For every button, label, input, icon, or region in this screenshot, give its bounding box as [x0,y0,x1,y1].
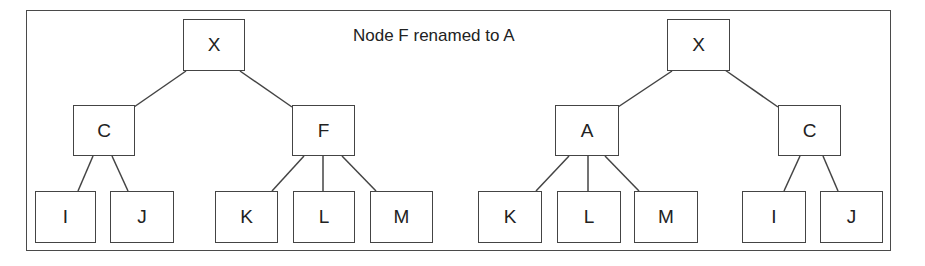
node-after-X: X [667,19,730,71]
node-before-X: X [183,19,245,71]
node-before-F: F [292,105,355,156]
edge-before-X-F [240,71,292,107]
edge-after-C-J [823,156,838,191]
node-before-I: I [35,191,96,243]
edge-before-C-I [78,156,93,191]
node-after-M: M [634,191,698,243]
node-after-L: L [557,191,621,243]
diagram-caption: Node F renamed to A [353,26,515,46]
node-before-C: C [73,105,135,156]
edge-before-C-J [112,156,128,191]
node-after-I: I [742,191,806,243]
edge-after-A-M [605,156,639,191]
edge-after-C-I [784,156,800,191]
node-after-A: A [555,105,619,156]
node-before-M: M [370,191,433,243]
node-after-K: K [478,191,542,243]
edge-before-F-K [272,156,304,191]
node-after-C: C [778,105,841,156]
edge-after-X-C [725,70,778,107]
node-before-L: L [293,191,355,243]
edge-before-X-C [134,71,186,107]
node-before-J: J [110,191,174,243]
edge-before-F-M [342,156,376,191]
node-after-J: J [820,191,883,243]
edge-after-X-A [618,71,672,107]
node-before-K: K [215,191,278,243]
edge-after-A-K [536,156,569,191]
diagram-stage: Node F renamed to A XCFIJKLMXACKLMIJ [0,0,925,266]
